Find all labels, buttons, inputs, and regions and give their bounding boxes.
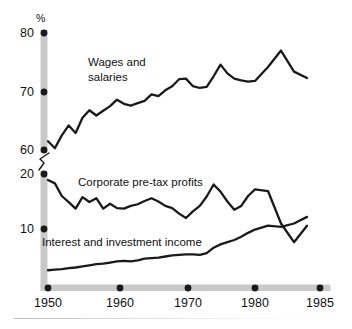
series-label-wages-line2: salaries: [88, 71, 128, 83]
x-tick-dot-1950: [45, 285, 52, 292]
y-tick-dot-10: [41, 226, 48, 233]
y-tick-label-60: 60: [20, 143, 34, 157]
line-chart-svg: 80 70 60 20 10 % 1950 1960 1970 1980 198…: [0, 0, 352, 329]
y-axis-unit-label: %: [36, 12, 45, 24]
y-tick-label-70: 70: [20, 85, 34, 99]
y-tick-label-80: 80: [20, 26, 34, 40]
x-tick-label-1960: 1960: [106, 296, 134, 310]
x-tick-dot-1985: [317, 285, 324, 292]
y-tick-dot-20: [41, 171, 48, 178]
footer-divider: [14, 318, 314, 319]
y-axis-break-marker: [39, 153, 50, 171]
x-tick-label-1950: 1950: [34, 296, 62, 310]
faint-cropped-header: [96, 0, 226, 10]
series-line-wages-and-salaries: [48, 51, 307, 149]
series-label-profits: Corporate pre-tax profits: [78, 176, 203, 188]
x-tick-dot-1960: [117, 285, 124, 292]
series-line-corporate-pre-tax-profits: [48, 180, 307, 242]
series-label-interest: Interest and investment income: [42, 236, 202, 248]
chart-container: 80 70 60 20 10 % 1950 1960 1970 1980 198…: [0, 0, 352, 329]
y-tick-label-10: 10: [20, 222, 34, 236]
series-label-wages-line1: Wages and: [88, 56, 146, 68]
y-tick-dot-70: [41, 89, 48, 96]
x-tick-dot-1980: [252, 285, 259, 292]
x-tick-label-1980: 1980: [241, 296, 269, 310]
y-tick-dot-80: [41, 30, 48, 37]
x-tick-label-1970: 1970: [174, 296, 202, 310]
x-tick-dot-1970: [185, 285, 192, 292]
y-tick-label-20: 20: [20, 167, 34, 181]
x-tick-label-1985: 1985: [306, 296, 334, 310]
y-tick-dot-60: [41, 147, 48, 154]
